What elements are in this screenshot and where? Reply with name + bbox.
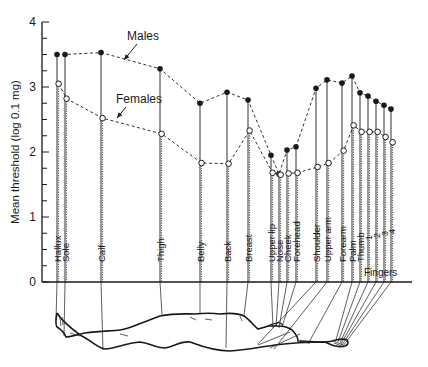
annotation-label: Males bbox=[127, 29, 159, 43]
male-marker bbox=[373, 99, 379, 105]
female-marker bbox=[247, 128, 253, 134]
male-marker bbox=[268, 152, 274, 158]
female-marker bbox=[359, 129, 365, 135]
leader-line bbox=[160, 282, 162, 315]
female-marker bbox=[315, 164, 321, 170]
female-marker bbox=[341, 148, 347, 154]
female-marker bbox=[270, 170, 276, 176]
y-tick-label: 4 bbox=[29, 15, 36, 29]
site-label: 4 bbox=[387, 229, 397, 234]
y-tick-label: 0 bbox=[29, 275, 36, 289]
y-tick-label: 1 bbox=[29, 210, 36, 224]
male-marker bbox=[388, 106, 394, 112]
female-marker bbox=[56, 81, 62, 87]
female-marker bbox=[351, 123, 357, 129]
male-marker bbox=[224, 89, 230, 95]
female-marker bbox=[326, 160, 332, 166]
male-marker bbox=[197, 100, 203, 106]
threshold-chart: 01234 Mean threshold (log 0.1 mg) Hallux… bbox=[0, 0, 428, 367]
male-marker bbox=[293, 144, 299, 150]
site-label: Thigh bbox=[155, 238, 166, 262]
site-label: Belly bbox=[195, 241, 206, 262]
male-marker bbox=[98, 50, 104, 56]
male-marker bbox=[381, 102, 387, 108]
site-label: Upper arm bbox=[322, 217, 333, 262]
female-marker bbox=[367, 129, 373, 135]
female-marker bbox=[375, 129, 381, 135]
male-marker bbox=[62, 52, 68, 58]
female-marker bbox=[286, 171, 292, 177]
male-marker bbox=[284, 147, 290, 153]
male-marker bbox=[324, 77, 330, 83]
site-label: Shoulder bbox=[311, 224, 322, 262]
body-outline-top bbox=[56, 313, 336, 342]
female-marker bbox=[226, 161, 232, 167]
leader-line bbox=[338, 282, 360, 342]
male-marker bbox=[349, 73, 355, 79]
leader-line bbox=[343, 282, 391, 346]
female-marker bbox=[64, 96, 70, 102]
y-tick-label: 3 bbox=[29, 80, 36, 94]
site-label: Calf bbox=[96, 245, 107, 262]
leader-line bbox=[341, 282, 376, 344]
leader-line bbox=[308, 282, 342, 344]
series-annotations: MalesFemales bbox=[116, 29, 162, 118]
leader-line bbox=[282, 282, 296, 327]
leader-line bbox=[274, 282, 327, 349]
site-label: Breast bbox=[243, 234, 254, 262]
leader-line bbox=[279, 282, 287, 328]
site-label: Sole bbox=[60, 243, 71, 262]
series-markers bbox=[54, 50, 395, 178]
male-marker bbox=[365, 93, 371, 99]
annotation-label: Females bbox=[116, 92, 162, 106]
y-axis: 01234 bbox=[29, 15, 49, 289]
site-label: Forehead bbox=[291, 221, 302, 262]
female-marker bbox=[199, 160, 205, 166]
male-marker bbox=[357, 90, 363, 96]
female-marker bbox=[278, 172, 284, 178]
site-labels: HalluxSoleCalfThighBellyBackBreastUpper … bbox=[52, 217, 397, 262]
male-marker bbox=[157, 66, 163, 72]
leader-line bbox=[101, 282, 103, 350]
female-marker bbox=[390, 139, 396, 145]
body-illustration bbox=[56, 313, 348, 351]
female-marker bbox=[100, 115, 106, 121]
fingers-group-label: Fingers bbox=[364, 267, 397, 278]
leader-line bbox=[276, 282, 279, 327]
female-marker bbox=[383, 134, 389, 140]
leader-line bbox=[226, 282, 227, 348]
y-axis-label: Mean threshold (log 0.1 mg) bbox=[9, 80, 21, 224]
males-line bbox=[57, 53, 391, 175]
leader-line bbox=[258, 282, 316, 344]
female-marker bbox=[295, 170, 301, 176]
male-marker bbox=[54, 52, 60, 58]
y-tick-label: 2 bbox=[29, 145, 36, 159]
female-marker bbox=[159, 131, 165, 137]
females-line bbox=[59, 84, 393, 175]
leader-line bbox=[64, 282, 65, 336]
male-marker bbox=[313, 86, 319, 92]
leader-line bbox=[271, 282, 273, 328]
leader-line bbox=[244, 282, 248, 316]
male-marker bbox=[245, 97, 251, 103]
male-marker bbox=[339, 80, 345, 86]
site-label: Back bbox=[222, 241, 233, 262]
